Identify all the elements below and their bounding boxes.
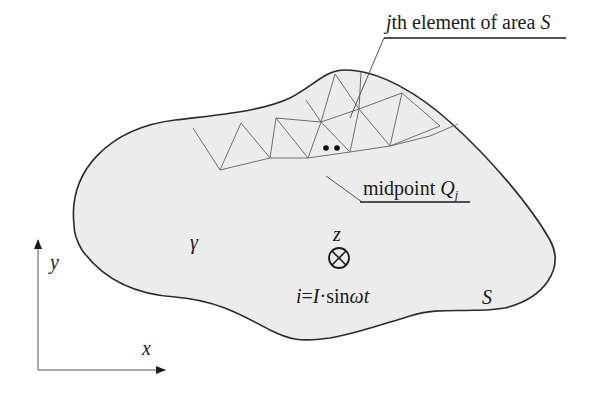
y-axis-label: y — [50, 252, 59, 272]
diagram-canvas — [0, 0, 594, 400]
boundary-gamma-label: γ — [190, 232, 198, 252]
formula-eq: = — [302, 285, 313, 307]
area-s-label: S — [482, 287, 492, 307]
element-label-text: th element of area — [392, 11, 541, 33]
midpoint-label-subscript: j — [455, 188, 458, 202]
x-axis-label: x — [142, 338, 151, 358]
midpoint-dot-icon — [334, 145, 340, 151]
midpoint-label: midpoint Qj — [363, 178, 458, 201]
midpoint-label-text: midpoint — [363, 177, 440, 199]
current-formula: i=I·sinωt — [296, 286, 369, 306]
formula-I: I — [313, 285, 320, 307]
midpoint-dot-icon — [323, 145, 329, 151]
z-axis-label: z — [333, 224, 341, 244]
element-label-area: S — [540, 11, 550, 33]
formula-sin: ·sin — [320, 285, 350, 307]
formula-omega-t: ωt — [350, 285, 370, 307]
element-label: jth element of area S — [386, 12, 550, 32]
midpoint-label-symbol: Q — [440, 177, 454, 199]
